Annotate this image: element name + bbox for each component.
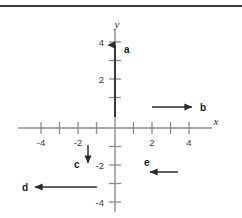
x-axis-label: x	[213, 115, 219, 127]
vector-a: a	[115, 44, 130, 117]
figure-canvas: -4 -2 2 4 4 2 -2 -4 x y a b c	[0, 0, 242, 218]
vector-a-label: a	[124, 44, 130, 55]
vector-e: e	[144, 157, 178, 172]
y-tick-label-4: 4	[99, 37, 104, 48]
coordinate-plane-plot: -4 -2 2 4 4 2 -2 -4 x y a b c	[0, 0, 242, 218]
y-axis-label: y	[114, 18, 120, 30]
vector-c-label: c	[74, 159, 80, 170]
x-tick-label--4: -4	[37, 137, 45, 148]
y-tick-label-2: 2	[99, 74, 104, 85]
vector-c: c	[74, 145, 88, 170]
vector-d-label: d	[22, 182, 28, 193]
vector-e-label: e	[144, 157, 150, 168]
vector-b: b	[152, 102, 206, 113]
vector-b-label: b	[200, 102, 206, 113]
x-tick-label-4: 4	[186, 137, 191, 148]
vector-d: d	[22, 182, 97, 193]
y-tick-label--2: -2	[96, 160, 104, 171]
x-tick-label-2: 2	[149, 137, 154, 148]
x-tick-label--2: -2	[74, 137, 82, 148]
y-tick-label--4: -4	[96, 197, 104, 208]
